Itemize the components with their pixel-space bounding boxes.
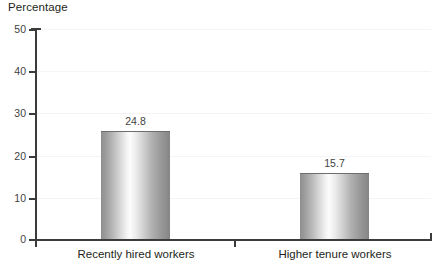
x-axis-end-tick	[430, 233, 432, 241]
y-tick-label-40: 40	[2, 66, 26, 77]
y-tick-10	[29, 198, 36, 200]
y-tick-label-10: 10	[2, 193, 26, 204]
bar-chart: Percentage 24.8 15.7 50 40 30 20 10 0 Re…	[0, 0, 439, 264]
gridline-40	[37, 71, 431, 72]
gridline-10	[37, 198, 431, 199]
gridline-20	[37, 156, 431, 157]
y-tick-30	[29, 113, 36, 115]
x-tick-middle	[234, 241, 236, 247]
x-tick-start	[35, 241, 37, 247]
y-tick-label-0: 0	[2, 234, 26, 245]
bar-value-label: 15.7	[300, 158, 369, 169]
x-axis-category-label: Higher tenure workers	[245, 249, 425, 261]
gridline-30	[37, 113, 431, 114]
y-axis-line	[35, 29, 37, 241]
y-tick-50	[29, 29, 36, 31]
y-tick-label-50: 50	[2, 24, 26, 35]
bar-value-label: 24.8	[101, 116, 170, 127]
bar-higher-tenure-workers	[300, 173, 369, 240]
y-tick-20	[29, 156, 36, 158]
y-tick-label-30: 30	[2, 108, 26, 119]
bar-recently-hired-workers	[101, 131, 170, 240]
x-axis-category-label: Recently hired workers	[46, 249, 226, 261]
gridline-50	[37, 29, 431, 30]
y-tick-label-20: 20	[2, 151, 26, 162]
y-axis-title: Percentage	[8, 1, 68, 13]
y-tick-40	[29, 71, 36, 73]
